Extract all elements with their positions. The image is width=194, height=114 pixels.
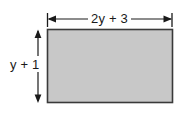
height-arrowhead-bottom xyxy=(35,95,42,104)
width-arrowhead-right xyxy=(164,16,173,23)
width-dimension-label: 2y + 3 xyxy=(88,12,131,25)
height-dimension-label: y + 1 xyxy=(8,57,42,72)
height-arrowhead-top xyxy=(35,30,42,39)
width-arrowhead-left xyxy=(48,16,57,23)
shaded-rectangle xyxy=(48,30,173,103)
rectangle-dimension-figure: 2y + 3 y + 1 xyxy=(0,0,194,114)
